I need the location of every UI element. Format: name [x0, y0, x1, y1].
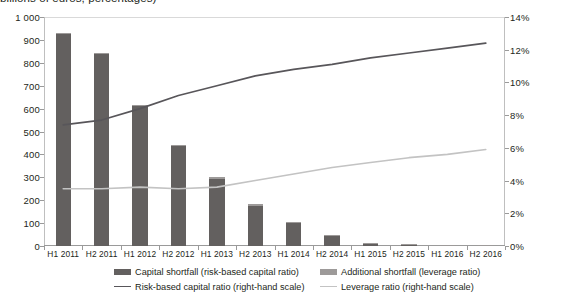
y-axis-right-tick-label: 6% [510, 142, 524, 153]
legend-swatch-box-icon [320, 269, 337, 275]
legend-item-label: Additional shortfall (leverage ratio) [341, 267, 480, 277]
x-axis-tick-label: H1 2015 [351, 249, 389, 259]
x-axis-tick-label: H1 2012 [121, 249, 159, 259]
x-axis-tick-label: H2 2012 [159, 249, 197, 259]
x-axis-tick-mark [351, 246, 352, 250]
chart-legend: Capital shortfall (risk-based capital ra… [0, 264, 564, 294]
chart-root: billions of euros, percentages) 01002003… [0, 0, 564, 299]
legend-item[interactable]: Leverage ratio (right-hand scale) [282, 282, 532, 292]
y-axis-right-tick-mark [505, 17, 509, 18]
x-axis-tick-mark [236, 246, 237, 250]
chart-title: billions of euros, percentages) [0, 0, 157, 4]
y-axis-right-tick-label: 0% [510, 241, 524, 252]
y-axis-left-tick-mark [40, 17, 44, 18]
y-axis-left-tick-label: 0 [0, 241, 40, 252]
y-axis-left-tick-mark [40, 63, 44, 64]
x-axis-tick-mark [505, 246, 506, 250]
legend-item-label: Leverage ratio (right-hand scale) [341, 282, 474, 292]
x-axis-tick-mark [313, 246, 314, 250]
y-axis-left-tick-label: 400 [0, 149, 40, 160]
x-axis-tick-mark [82, 246, 83, 250]
legend-item-label: Capital shortfall (risk-based capital ra… [135, 267, 299, 277]
y-axis-left-tick-label: 800 [0, 57, 40, 68]
y-axis-left-tick-label: 200 [0, 195, 40, 206]
x-axis-tick-label: H1 2014 [275, 249, 313, 259]
x-axis-tick-mark [390, 246, 391, 250]
y-axis-left-tick-mark [40, 200, 44, 201]
x-axis-tick-mark [159, 246, 160, 250]
x-axis-tick-mark [44, 246, 45, 250]
x-axis-tick-label: H2 2016 [467, 249, 505, 259]
x-axis-tick-label: H2 2013 [236, 249, 274, 259]
line-series-layer [44, 17, 505, 246]
line-risk-based-capital-ratio [63, 43, 486, 125]
y-axis-left-tick-label: 100 [0, 218, 40, 229]
x-axis-tick-mark [198, 246, 199, 250]
x-axis-tick-label: H1 2016 [428, 249, 466, 259]
x-axis-tick-mark [428, 246, 429, 250]
y-axis-right-tick-label: 4% [510, 175, 524, 186]
y-axis-left-tick-label: 600 [0, 103, 40, 114]
y-axis-left-tick-mark [40, 86, 44, 87]
y-axis-left-tick-label: 500 [0, 126, 40, 137]
y-axis-right-tick-mark [505, 50, 509, 51]
y-axis-right-tick-label: 14% [510, 12, 530, 23]
y-axis-left-tick-mark [40, 177, 44, 178]
y-axis-left-tick-label: 300 [0, 172, 40, 183]
y-axis-left-tick-label: 900 [0, 34, 40, 45]
x-axis-tick-label: H2 2014 [313, 249, 351, 259]
line-leverage-ratio [63, 149, 486, 188]
y-axis-left-tick-mark [40, 154, 44, 155]
x-axis-tick-mark [121, 246, 122, 250]
legend-row: Capital shortfall (risk-based capital ra… [0, 264, 564, 279]
y-axis-right-tick-mark [505, 82, 509, 83]
y-axis-left-tick-label: 700 [0, 80, 40, 91]
legend-swatch-line-icon [320, 286, 337, 287]
y-axis-left-tick-mark [40, 132, 44, 133]
legend-swatch-line-icon [114, 286, 131, 287]
x-axis-tick-label: H1 2013 [198, 249, 236, 259]
y-axis-right-tick-mark [505, 213, 509, 214]
x-axis-tick-mark [275, 246, 276, 250]
x-axis-tick-mark [467, 246, 468, 250]
y-axis-left-tick-mark [40, 109, 44, 110]
y-axis-right-tick-mark [505, 115, 509, 116]
x-axis-tick-label: H2 2011 [82, 249, 120, 259]
legend-item-label: Risk-based capital ratio (right-hand sca… [135, 282, 305, 292]
y-axis-right-tick-label: 8% [510, 110, 524, 121]
legend-item[interactable]: Additional shortfall (leverage ratio) [282, 267, 532, 277]
legend-swatch-box-icon [114, 269, 131, 275]
legend-item[interactable]: Risk-based capital ratio (right-hand sca… [32, 282, 282, 292]
plot-area [44, 17, 505, 246]
legend-row: Risk-based capital ratio (right-hand sca… [0, 279, 564, 294]
x-axis-tick-label: H1 2011 [44, 249, 82, 259]
y-axis-left-tick-label: 1 000 [0, 12, 40, 23]
y-axis-left-tick-mark [40, 40, 44, 41]
y-axis-right-tick-label: 12% [510, 44, 530, 55]
legend-item[interactable]: Capital shortfall (risk-based capital ra… [32, 267, 282, 277]
y-axis-right-tick-label: 2% [510, 208, 524, 219]
y-axis-right-tick-label: 10% [510, 77, 530, 88]
x-axis-tick-label: H2 2015 [390, 249, 428, 259]
y-axis-left-tick-mark [40, 223, 44, 224]
y-axis-right-tick-mark [505, 181, 509, 182]
y-axis-right-tick-mark [505, 148, 509, 149]
